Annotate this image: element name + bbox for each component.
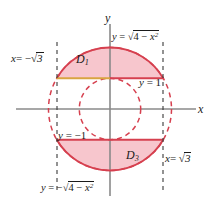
math-figure: y x x= −√3 x= √3 y = √4 − x2 y = −√4 − x… [0,0,212,202]
y-eq-neg1-value: = −1 [66,129,87,141]
top-curve-radicand: 4 − x2 [133,30,160,42]
bot-curve-radicand-minus: − [74,182,85,193]
bot-curve-eq: = − [48,182,62,193]
sqrt-icon: √3 [179,152,192,165]
top-curve-var: y [112,31,117,42]
region-label-d1: D1 [76,53,89,67]
label-upper-semicircle-equation: y = √4 − x2 [112,30,159,43]
top-curve-eq: = [119,31,125,42]
sqrt-icon: √3 [31,52,44,65]
label-lower-semicircle-equation: y = −√4 − x2 [41,181,94,194]
top-curve-radicand-minus: − [139,31,150,42]
bot-curve-var: y [41,182,46,193]
y-eq-neg1-var: y [58,129,63,141]
x-pos-sqrt3-eq: = [170,152,176,164]
x-pos-sqrt3-radicand: 3 [184,152,192,165]
y-eq-1-var: y [139,76,144,88]
label-x-equals-neg-sqrt3: x= −√3 [11,52,44,65]
region-d1-subscript: 1 [85,58,89,67]
x-neg-sqrt3-eq: = − [16,52,31,64]
y-axis-label: y [105,12,110,24]
bot-curve-radicand-exp: 2 [90,182,94,190]
sqrt-icon: √4 − x2 [63,181,94,194]
region-d3-subscript: 3 [135,154,139,163]
region-d1-letter: D [76,52,85,66]
sqrt-icon: √4 − x2 [128,30,159,43]
label-x-equals-sqrt3: x= √3 [165,152,191,165]
region-d3-letter: D [126,148,135,162]
x-axis-label: x [198,103,203,115]
x-neg-sqrt3-radicand: 3 [36,52,44,65]
plot-canvas [0,0,212,202]
region-label-d3: D3 [126,149,139,163]
bot-curve-radicand: 4 − x2 [68,181,95,193]
top-curve-radicand-exp: 2 [155,31,159,39]
y-eq-1-value: = 1 [147,76,161,88]
label-y-equals-1: y = 1 [139,77,161,88]
label-y-equals-minus-1: y = −1 [58,130,86,141]
